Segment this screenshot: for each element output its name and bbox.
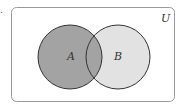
set-b-label: B — [113, 50, 122, 63]
universe-label: U — [161, 12, 171, 25]
venn-diagram: A B U — [0, 0, 179, 105]
set-a-label: A — [66, 50, 75, 63]
